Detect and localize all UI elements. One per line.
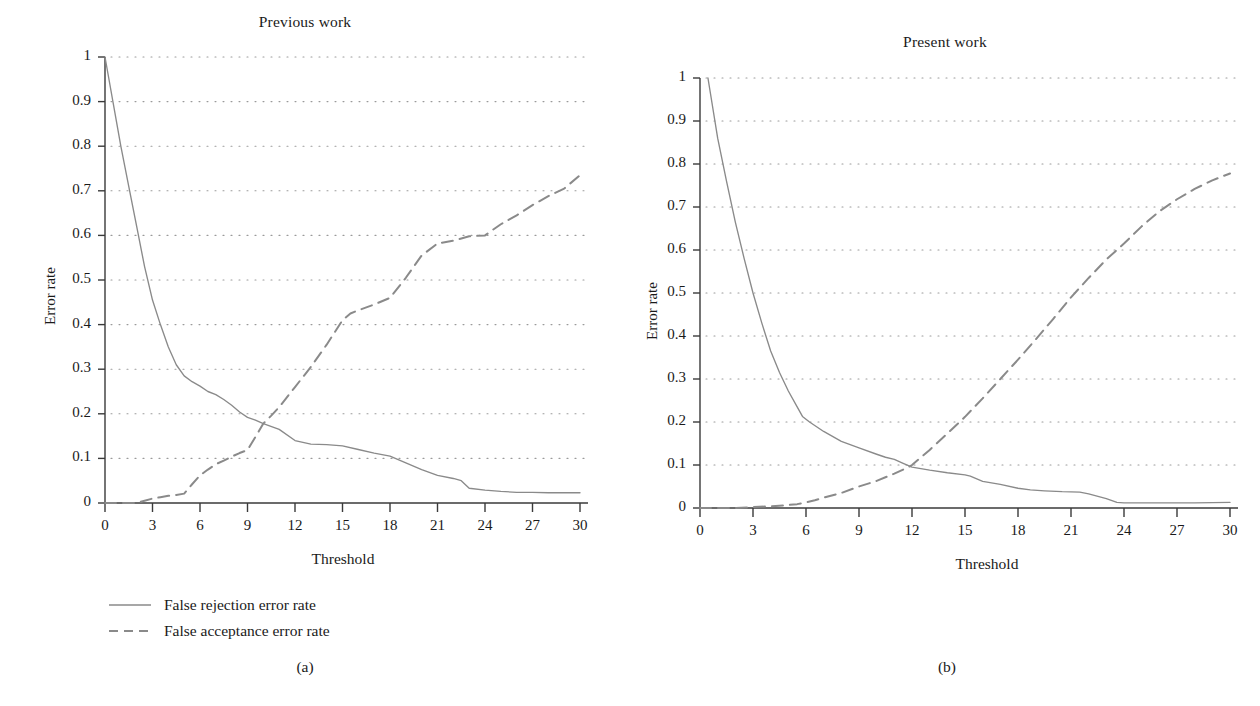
legend-item: False rejection error rate bbox=[108, 592, 330, 618]
panel-a-y-tick-label: 0 bbox=[43, 493, 91, 510]
panel-b-x-tick-label: 15 bbox=[940, 522, 990, 539]
panel-b-x-tick-label: 24 bbox=[1099, 522, 1149, 539]
series-line-false-acceptance bbox=[105, 175, 580, 503]
panel-a-y-tick-label: 0.6 bbox=[43, 225, 91, 242]
panel-a-x-tick-label: 3 bbox=[128, 517, 178, 534]
panel-b-plot bbox=[630, 0, 1260, 706]
panel-a-x-tick-label: 21 bbox=[413, 517, 463, 534]
panel-b-x-tick-label: 3 bbox=[728, 522, 778, 539]
series-line-false-rejection bbox=[708, 78, 1230, 503]
panel-a-y-tick-label: 1 bbox=[43, 47, 91, 64]
panel-b-x-tick-label: 12 bbox=[887, 522, 937, 539]
panel-b-y-tick-label: 0.2 bbox=[638, 412, 686, 429]
panel-a-x-tick-label: 15 bbox=[318, 517, 368, 534]
panel-b-x-tick-label: 30 bbox=[1205, 522, 1255, 539]
panel-a-y-tick-label: 0.9 bbox=[43, 92, 91, 109]
panel-b-x-tick-label: 18 bbox=[993, 522, 1043, 539]
panel-a-legend: False rejection error rateFalse acceptan… bbox=[108, 592, 330, 644]
panel-a-y-tick-label: 0.7 bbox=[43, 181, 91, 198]
legend-item-label: False rejection error rate bbox=[164, 596, 316, 614]
series-line-false-rejection bbox=[105, 57, 580, 493]
panel-b-x-axis-label: Threshold bbox=[630, 555, 1260, 573]
panel-b-x-tick-label: 6 bbox=[781, 522, 831, 539]
panel-a-y-tick-label: 0.1 bbox=[43, 448, 91, 465]
chart-panel-a: Previous work Error rate Threshold False… bbox=[0, 0, 630, 706]
panel-a-x-tick-label: 30 bbox=[555, 517, 605, 534]
panel-b-y-tick-label: 0 bbox=[638, 498, 686, 515]
legend-item-label: False acceptance error rate bbox=[164, 622, 330, 640]
panel-b-y-tick-label: 0.9 bbox=[638, 111, 686, 128]
chart-panel-b: Present work Error rate Threshold False … bbox=[630, 0, 1260, 706]
panel-b-y-tick-label: 0.7 bbox=[638, 197, 686, 214]
panel-a-y-tick-label: 0.3 bbox=[43, 359, 91, 376]
panel-a-x-tick-label: 12 bbox=[270, 517, 320, 534]
panel-b-y-tick-label: 0.4 bbox=[638, 326, 686, 343]
panel-b-x-tick-label: 27 bbox=[1152, 522, 1202, 539]
panel-b-y-tick-label: 0.5 bbox=[638, 283, 686, 300]
panel-b-y-tick-label: 0.3 bbox=[638, 369, 686, 386]
panel-b-subcaption: (b) bbox=[632, 658, 1260, 676]
panel-b-x-tick-label: 9 bbox=[834, 522, 884, 539]
panel-b-y-tick-label: 0.6 bbox=[638, 240, 686, 257]
panel-a-y-tick-label: 0.2 bbox=[43, 404, 91, 421]
figure-root: Previous work Error rate Threshold False… bbox=[0, 0, 1260, 706]
panel-a-x-tick-label: 24 bbox=[460, 517, 510, 534]
panel-a-y-tick-label: 0.4 bbox=[43, 315, 91, 332]
legend-solid-line-icon bbox=[108, 598, 152, 612]
panel-a-subcaption: (a) bbox=[0, 658, 620, 676]
panel-b-x-tick-label: 21 bbox=[1046, 522, 1096, 539]
legend-dashed-line-icon bbox=[108, 624, 152, 638]
series-line-false-acceptance bbox=[700, 173, 1230, 508]
panel-a-x-tick-label: 27 bbox=[508, 517, 558, 534]
panel-b-y-tick-label: 0.1 bbox=[638, 455, 686, 472]
panel-a-x-tick-label: 9 bbox=[223, 517, 273, 534]
panel-b-y-tick-label: 1 bbox=[638, 68, 686, 85]
panel-a-y-tick-label: 0.5 bbox=[43, 270, 91, 287]
panel-b-x-tick-label: 0 bbox=[675, 522, 725, 539]
panel-a-x-axis-label: Threshold bbox=[0, 550, 658, 568]
legend-item: False acceptance error rate bbox=[108, 618, 330, 644]
panel-b-y-tick-label: 0.8 bbox=[638, 154, 686, 171]
panel-a-y-tick-label: 0.8 bbox=[43, 136, 91, 153]
panel-a-x-tick-label: 6 bbox=[175, 517, 225, 534]
panel-a-x-tick-label: 18 bbox=[365, 517, 415, 534]
panel-a-x-tick-label: 0 bbox=[80, 517, 130, 534]
